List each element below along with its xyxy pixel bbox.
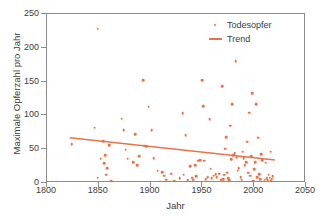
data-point bbox=[159, 180, 162, 182]
data-point bbox=[145, 145, 148, 148]
data-point bbox=[222, 178, 225, 181]
data-point bbox=[201, 79, 204, 82]
data-point bbox=[136, 164, 139, 167]
data-point bbox=[260, 153, 263, 156]
x-tick-mark bbox=[150, 182, 151, 187]
data-point bbox=[235, 156, 238, 159]
data-point bbox=[252, 180, 255, 182]
data-point bbox=[231, 103, 234, 106]
data-point bbox=[273, 180, 276, 182]
data-point bbox=[163, 174, 166, 177]
data-point bbox=[100, 157, 103, 160]
data-point bbox=[251, 92, 254, 95]
data-point bbox=[194, 164, 197, 167]
data-point bbox=[122, 129, 125, 132]
data-point bbox=[264, 161, 267, 164]
data-point bbox=[216, 176, 219, 179]
data-point bbox=[255, 103, 258, 106]
data-point bbox=[103, 162, 106, 165]
data-point bbox=[124, 149, 127, 152]
data-point bbox=[105, 174, 108, 177]
data-point bbox=[242, 151, 245, 154]
chart-figure: Maximale Opferzahl pro Jahr Jahr 0501001… bbox=[0, 0, 329, 220]
data-point bbox=[229, 124, 232, 127]
data-point bbox=[106, 167, 109, 170]
data-point bbox=[142, 79, 145, 82]
data-point bbox=[102, 140, 105, 143]
data-point bbox=[138, 155, 141, 158]
data-point bbox=[120, 117, 123, 120]
data-point bbox=[248, 111, 251, 114]
data-point bbox=[245, 161, 248, 164]
chart-legend: Todesopfer Trend bbox=[206, 18, 272, 46]
legend-label: Todesopfer bbox=[224, 20, 272, 30]
data-point bbox=[108, 144, 111, 147]
data-point bbox=[178, 177, 181, 180]
data-point bbox=[269, 151, 272, 154]
data-point bbox=[173, 180, 176, 182]
data-point bbox=[237, 167, 240, 170]
data-point bbox=[182, 174, 185, 177]
data-point bbox=[168, 180, 171, 182]
data-point bbox=[233, 152, 236, 155]
data-point bbox=[226, 172, 229, 175]
legend-item-todesopfer: Todesopfer bbox=[206, 18, 272, 32]
x-tick-mark bbox=[98, 182, 99, 187]
data-point bbox=[161, 171, 164, 174]
x-axis-title: Jahr bbox=[46, 200, 305, 211]
data-point bbox=[230, 158, 233, 161]
data-point bbox=[104, 154, 107, 157]
data-point bbox=[147, 105, 150, 108]
data-point bbox=[189, 165, 192, 168]
data-point bbox=[152, 157, 155, 160]
data-point bbox=[258, 173, 261, 176]
data-point bbox=[206, 176, 209, 179]
data-point bbox=[228, 179, 231, 182]
data-point bbox=[246, 140, 249, 143]
data-point bbox=[110, 180, 113, 182]
data-point bbox=[195, 175, 198, 178]
data-point bbox=[261, 159, 264, 162]
data-point bbox=[127, 157, 130, 160]
data-point bbox=[203, 159, 206, 162]
x-tick-mark bbox=[46, 182, 47, 187]
data-point bbox=[253, 168, 256, 171]
data-point bbox=[209, 168, 212, 171]
y-tick-label: 100 bbox=[0, 109, 39, 119]
data-point bbox=[170, 172, 173, 175]
data-point bbox=[234, 60, 237, 63]
y-tick-label: 200 bbox=[0, 42, 39, 52]
data-point bbox=[223, 174, 226, 177]
x-tick-mark bbox=[201, 182, 202, 187]
data-point bbox=[132, 161, 135, 164]
data-point bbox=[208, 118, 211, 121]
legend-label: Trend bbox=[224, 34, 250, 44]
data-point bbox=[243, 157, 246, 160]
data-point bbox=[192, 178, 195, 181]
dot-marker-icon bbox=[206, 24, 224, 27]
y-tick-label: 250 bbox=[0, 8, 39, 18]
x-tick-mark bbox=[253, 182, 254, 187]
data-point bbox=[202, 105, 205, 108]
data-point bbox=[240, 178, 243, 181]
x-tick-mark bbox=[305, 182, 306, 187]
data-point bbox=[181, 112, 184, 115]
data-point bbox=[199, 159, 202, 162]
data-point bbox=[157, 170, 160, 173]
data-point bbox=[259, 178, 262, 181]
data-point bbox=[272, 175, 275, 178]
data-point bbox=[71, 143, 74, 146]
data-point bbox=[249, 174, 252, 177]
data-point bbox=[225, 136, 228, 139]
data-point bbox=[150, 129, 153, 132]
data-point bbox=[187, 179, 190, 182]
data-point bbox=[96, 28, 99, 31]
data-point bbox=[250, 155, 253, 158]
data-point bbox=[134, 133, 137, 136]
data-point bbox=[224, 147, 227, 150]
data-point bbox=[96, 176, 99, 179]
data-point bbox=[257, 136, 260, 139]
y-axis-title: Maximale Opferzahl pro Jahr bbox=[11, 4, 22, 184]
data-point bbox=[236, 170, 239, 173]
y-tick-label: 50 bbox=[0, 143, 39, 153]
